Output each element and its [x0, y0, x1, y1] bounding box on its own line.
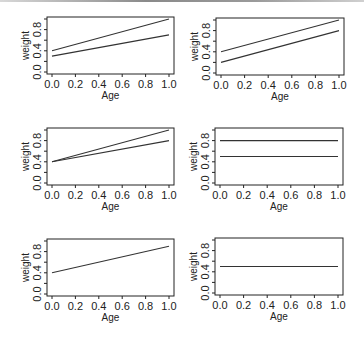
y-tick-label: 0.4 — [31, 265, 43, 280]
x-tick-label: 0.4 — [261, 79, 276, 91]
x-tick-label: 0.2 — [236, 189, 251, 201]
x-axis: 0.00.20.40.60.81.0Age — [212, 295, 345, 322]
x-axis: 0.00.20.40.60.81.0Age — [212, 185, 345, 212]
x-tick-label: 1.0 — [330, 299, 345, 311]
y-axis-label: weight — [188, 142, 199, 172]
y-tick-label: 0.8 — [199, 243, 211, 258]
y-tick-label: 0.0 — [31, 286, 43, 301]
y-tick-label: 0.4 — [199, 154, 211, 169]
x-axis-label: Age — [271, 91, 289, 102]
x-tick-label: 0.4 — [91, 78, 106, 90]
y-tick-label: 0.4 — [199, 264, 211, 279]
y-tick-label: 0.8 — [199, 133, 211, 148]
series-line-2 — [52, 141, 169, 162]
series-line-1 — [52, 246, 169, 272]
plot-frame — [47, 128, 174, 185]
x-tick-label: 0.2 — [68, 300, 83, 312]
y-axis: 0.00.40.8weight — [188, 240, 215, 301]
x-axis-label: Age — [102, 201, 120, 212]
chart-panel-row3-col2: 0.00.20.40.60.81.0Age0.00.40.8weight — [188, 238, 346, 322]
y-tick-label: 0.8 — [31, 244, 43, 259]
x-tick-label: 1.0 — [330, 189, 345, 201]
y-axis: 0.00.40.8weight — [20, 19, 47, 80]
y-axis: 0.00.40.8weight — [189, 20, 216, 81]
x-tick-label: 0.4 — [260, 299, 275, 311]
x-tick-label: 0.8 — [307, 299, 322, 311]
x-tick-label: 0.2 — [68, 78, 83, 90]
x-tick-label: 0.6 — [115, 189, 130, 201]
chart-figure: 0.00.20.40.60.81.0Age0.00.40.8weight0.00… — [0, 0, 364, 338]
x-tick-label: 0.6 — [115, 300, 130, 312]
x-tick-label: 0.4 — [91, 300, 106, 312]
x-tick-label: 0.0 — [212, 189, 227, 201]
x-tick-label: 0.6 — [284, 79, 299, 91]
y-axis-label: weight — [189, 32, 200, 62]
x-tick-label: 0.2 — [237, 79, 252, 91]
x-tick-label: 0.8 — [138, 189, 153, 201]
x-tick-label: 0.4 — [260, 189, 275, 201]
x-tick-label: 1.0 — [161, 300, 176, 312]
x-axis: 0.00.20.40.60.81.0Age — [213, 75, 346, 102]
chart-panel-row3-col1: 0.00.20.40.60.81.0Age0.00.40.8weight — [20, 239, 177, 323]
x-axis-label: Age — [270, 311, 288, 322]
x-tick-label: 0.6 — [115, 78, 130, 90]
x-tick-label: 0.8 — [138, 78, 153, 90]
y-axis-label: weight — [188, 252, 199, 282]
y-axis-label: weight — [20, 31, 31, 61]
x-tick-label: 0.0 — [213, 79, 228, 91]
y-tick-label: 0.0 — [31, 64, 43, 79]
x-tick-label: 0.8 — [138, 300, 153, 312]
x-tick-label: 1.0 — [331, 79, 346, 91]
x-axis-label: Age — [102, 90, 120, 101]
x-axis: 0.00.20.40.60.81.0Age — [44, 185, 176, 212]
chart-panel-row2-col2: 0.00.20.40.60.81.0Age0.00.40.8weight — [188, 128, 346, 212]
y-axis: 0.00.40.8weight — [188, 130, 215, 191]
x-tick-label: 0.8 — [308, 79, 323, 91]
x-tick-label: 0.8 — [307, 189, 322, 201]
y-tick-label: 0.0 — [199, 175, 211, 190]
x-tick-label: 0.0 — [44, 300, 59, 312]
chart-panel-row2-col1: 0.00.20.40.60.81.0Age0.00.40.8weight — [20, 128, 177, 212]
chart-panel-row1-col1: 0.00.20.40.60.81.0Age0.00.40.8weight — [20, 17, 177, 101]
x-tick-label: 0.0 — [44, 78, 59, 90]
y-axis: 0.00.40.8weight — [20, 241, 47, 302]
y-tick-label: 0.8 — [31, 22, 43, 37]
y-tick-label: 0.4 — [31, 154, 43, 169]
y-tick-label: 0.4 — [200, 44, 212, 59]
y-tick-label: 0.0 — [200, 65, 212, 80]
x-tick-label: 0.6 — [283, 299, 298, 311]
x-axis: 0.00.20.40.60.81.0Age — [44, 74, 176, 101]
plot-frame — [47, 239, 174, 296]
y-tick-label: 0.0 — [31, 175, 43, 190]
x-tick-label: 0.4 — [91, 189, 106, 201]
x-tick-label: 1.0 — [161, 189, 176, 201]
x-axis-label: Age — [270, 201, 288, 212]
x-tick-label: 1.0 — [161, 78, 176, 90]
y-axis-label: weight — [20, 253, 31, 283]
x-tick-label: 0.6 — [283, 189, 298, 201]
x-tick-label: 0.2 — [236, 299, 251, 311]
y-tick-label: 0.0 — [199, 285, 211, 300]
y-tick-label: 0.4 — [31, 43, 43, 58]
y-tick-label: 0.8 — [200, 23, 212, 38]
y-axis-label: weight — [20, 142, 31, 172]
x-axis-label: Age — [102, 312, 120, 323]
x-axis: 0.00.20.40.60.81.0Age — [44, 296, 176, 323]
x-tick-label: 0.2 — [68, 189, 83, 201]
y-axis: 0.00.40.8weight — [20, 130, 47, 191]
series-line-1 — [52, 130, 169, 162]
y-tick-label: 0.8 — [31, 133, 43, 148]
x-tick-label: 0.0 — [44, 189, 59, 201]
chart-panel-row1-col2: 0.00.20.40.60.81.0Age0.00.40.8weight — [189, 18, 347, 102]
x-tick-label: 0.0 — [212, 299, 227, 311]
